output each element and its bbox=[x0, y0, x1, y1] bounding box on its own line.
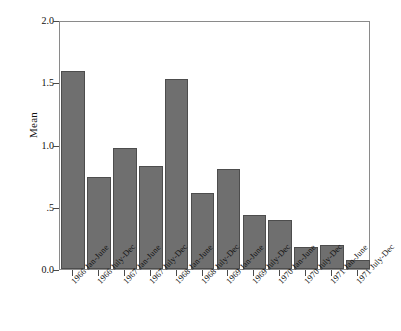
y-axis-tick bbox=[53, 146, 59, 147]
y-tick-label: 2.0 bbox=[22, 16, 54, 26]
x-axis-tick bbox=[150, 270, 151, 276]
bar bbox=[61, 71, 85, 269]
x-axis-tick bbox=[72, 270, 73, 276]
bar bbox=[217, 169, 241, 269]
x-axis-tick bbox=[227, 270, 228, 276]
y-axis-tick bbox=[53, 21, 59, 22]
bar bbox=[243, 215, 267, 269]
y-tick-label: 1.0 bbox=[22, 141, 54, 151]
bar bbox=[268, 220, 292, 269]
y-tick-label: 1.5 bbox=[22, 78, 54, 88]
bar bbox=[294, 247, 318, 269]
bar-chart: Mean 0.0.51.01.52.0 1966 Jan-June1966 Ju… bbox=[0, 0, 401, 331]
bar bbox=[191, 193, 215, 269]
x-axis-tick bbox=[98, 270, 99, 276]
x-axis-tick bbox=[202, 270, 203, 276]
bar bbox=[165, 79, 189, 269]
bar bbox=[139, 166, 163, 269]
x-axis-tick bbox=[331, 270, 332, 276]
bar bbox=[346, 260, 370, 269]
y-tick-label: 0.0 bbox=[22, 265, 54, 275]
bar bbox=[87, 177, 111, 269]
y-axis-tick bbox=[53, 270, 59, 271]
x-axis-tick bbox=[176, 270, 177, 276]
x-axis-tick bbox=[253, 270, 254, 276]
y-tick-label: .5 bbox=[22, 203, 54, 213]
plot-area bbox=[60, 22, 369, 269]
x-axis-tick bbox=[357, 270, 358, 276]
y-axis-tick-labels: 0.0.51.01.52.0 bbox=[22, 0, 58, 331]
bar bbox=[113, 148, 137, 269]
y-axis-tick bbox=[53, 208, 59, 209]
x-axis-tick bbox=[279, 270, 280, 276]
bar bbox=[320, 245, 344, 269]
y-axis-tick bbox=[53, 83, 59, 84]
x-axis-tick bbox=[305, 270, 306, 276]
x-axis-tick bbox=[124, 270, 125, 276]
plot-frame bbox=[59, 21, 370, 270]
